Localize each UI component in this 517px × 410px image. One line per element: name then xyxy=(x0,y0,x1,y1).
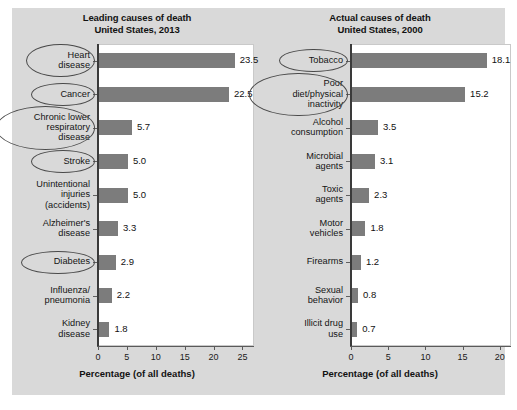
bar-value-label: 3.3 xyxy=(123,222,136,233)
chart-left-title-line2: United States, 2013 xyxy=(12,24,262,36)
category-label: Motorvehicles xyxy=(257,218,343,238)
x-axis-tick-label: 0 xyxy=(95,352,100,362)
category-label-line: vehicles xyxy=(257,228,343,238)
x-axis-tick xyxy=(351,346,352,350)
annotation-ellipse xyxy=(249,73,348,117)
label-leader-line xyxy=(346,296,350,297)
bar xyxy=(99,53,235,68)
category-label-line: Illicit drug xyxy=(257,318,343,328)
category-label: Microbialagents xyxy=(257,151,343,171)
chart-actual-causes-of-death: Actual causes of death United States, 20… xyxy=(255,8,505,395)
figure-panel: Leading causes of death United States, 2… xyxy=(12,8,505,395)
category-label: Alcoholconsumption xyxy=(257,117,343,137)
bar xyxy=(352,188,369,203)
bar xyxy=(99,322,109,337)
bar xyxy=(352,87,465,102)
label-leader-line xyxy=(93,195,97,196)
label-leader-line xyxy=(346,329,350,330)
x-axis-tick xyxy=(214,346,215,350)
chart-left-title-line1: Leading causes of death xyxy=(12,12,262,24)
x-axis-tick xyxy=(388,346,389,350)
bar-value-label: 2.9 xyxy=(121,256,134,267)
x-axis-tick-label: 25 xyxy=(237,352,247,362)
bar-value-label: 3.5 xyxy=(383,121,396,132)
bar xyxy=(352,53,487,68)
chart-right-title: Actual causes of death United States, 20… xyxy=(255,12,505,35)
category-label-line: Toxic xyxy=(257,184,343,194)
x-axis-tick-label: 20 xyxy=(209,352,219,362)
category-label-line: use xyxy=(257,329,343,339)
bar xyxy=(99,288,112,303)
category-label: Unintentionalinjuries(accidents) xyxy=(14,179,90,210)
annotation-ellipse xyxy=(21,251,95,274)
category-label-line: injuries xyxy=(14,189,90,199)
label-leader-line xyxy=(346,128,350,129)
category-label: Toxicagents xyxy=(257,184,343,204)
bar-value-label: 1.2 xyxy=(366,256,379,267)
bar xyxy=(99,154,128,169)
chart-right-x-axis xyxy=(350,346,511,347)
bar xyxy=(352,120,378,135)
bar xyxy=(352,288,358,303)
bar-value-label: 3.1 xyxy=(380,155,393,166)
bar-value-label: 0.8 xyxy=(363,289,376,300)
annotation-ellipse xyxy=(279,49,348,72)
figure-root: Leading causes of death United States, 2… xyxy=(0,0,517,410)
category-label: Influenza/pneumonia xyxy=(14,285,90,305)
bar-value-label: 1.8 xyxy=(370,222,383,233)
category-label-line: Motor xyxy=(257,218,343,228)
x-axis-tick-label: 5 xyxy=(124,352,129,362)
category-label-line: Sexual xyxy=(257,285,343,295)
label-leader-line xyxy=(346,195,350,196)
label-leader-line xyxy=(346,262,350,263)
x-axis-tick-label: 10 xyxy=(151,352,161,362)
category-label: Firearms xyxy=(257,256,343,266)
annotation-ellipse xyxy=(26,44,95,77)
x-axis-tick xyxy=(242,346,243,350)
category-label-line: Alcohol xyxy=(257,117,343,127)
category-label: Sexualbehavior xyxy=(257,285,343,305)
annotation-ellipse xyxy=(31,83,95,106)
category-label-line: Microbial xyxy=(257,151,343,161)
category-label-line: consumption xyxy=(257,127,343,137)
x-axis-tick-label: 15 xyxy=(458,352,468,362)
chart-left-title: Leading causes of death United States, 2… xyxy=(12,12,262,35)
chart-right-x-axis-title: Percentage (of all deaths) xyxy=(255,368,505,379)
category-label: Illicit druguse xyxy=(257,318,343,338)
chart-left-x-axis xyxy=(97,346,254,347)
x-axis-tick xyxy=(500,346,501,350)
bar-value-label: 2.3 xyxy=(374,189,387,200)
x-axis-tick xyxy=(463,346,464,350)
label-leader-line xyxy=(93,329,97,330)
bar xyxy=(352,221,365,236)
x-axis-tick xyxy=(425,346,426,350)
category-label-line: Firearms xyxy=(257,256,343,266)
x-axis-tick xyxy=(156,346,157,350)
label-leader-line xyxy=(346,229,350,230)
bar-value-label: 5.7 xyxy=(137,121,150,132)
x-axis-tick xyxy=(185,346,186,350)
category-label-line: Unintentional xyxy=(14,179,90,189)
bar xyxy=(352,255,361,270)
bar-value-label: 0.7 xyxy=(362,323,375,334)
x-axis-tick-label: 0 xyxy=(348,352,353,362)
x-axis-tick-label: 20 xyxy=(495,352,505,362)
category-label: Alzheimer'sdisease xyxy=(14,218,90,238)
category-label-line: agents xyxy=(257,194,343,204)
bar xyxy=(352,154,375,169)
chart-leading-causes-of-death: Leading causes of death United States, 2… xyxy=(12,8,262,395)
x-axis-tick-label: 5 xyxy=(386,352,391,362)
x-axis-tick xyxy=(127,346,128,350)
label-leader-line xyxy=(93,229,97,230)
annotation-ellipse xyxy=(0,106,95,150)
bar-value-label: 15.2 xyxy=(470,88,489,99)
category-label-line: Kidney xyxy=(14,318,90,328)
category-label-line: disease xyxy=(14,228,90,238)
bar-value-label: 2.2 xyxy=(117,289,130,300)
x-axis-tick-label: 10 xyxy=(420,352,430,362)
bar xyxy=(99,221,118,236)
bar xyxy=(99,188,128,203)
x-axis-tick-label: 15 xyxy=(180,352,190,362)
category-label: Kidneydisease xyxy=(14,318,90,338)
annotation-ellipse xyxy=(31,150,95,173)
